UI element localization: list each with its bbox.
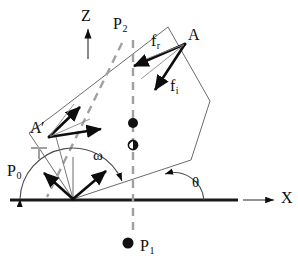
fr-subscript: r <box>157 40 160 51</box>
p2-subscript: 2 <box>122 23 127 34</box>
fi-letter: f <box>170 77 175 94</box>
fr-letter: f <box>151 32 156 49</box>
aprime-force-vectors <box>48 104 102 139</box>
diagram-canvas <box>0 0 298 269</box>
p1-letter: P <box>140 237 149 254</box>
omega-label: ω <box>93 148 103 163</box>
p0-subscript: 0 <box>16 170 21 181</box>
theta-label: θ <box>192 175 199 190</box>
mass-dot-upper <box>128 118 138 128</box>
p2-letter: P <box>113 15 122 32</box>
fr-label: fr <box>151 33 160 49</box>
z-axis-label: Z <box>81 8 91 24</box>
p1-label: P1 <box>140 238 154 254</box>
fi-label: fi <box>170 78 178 94</box>
fi-subscript: i <box>176 85 179 96</box>
a-prime-text: A′ <box>30 119 44 136</box>
a-label: A <box>188 27 200 43</box>
a-force-vectors <box>134 43 187 91</box>
p1-subscript: 1 <box>149 245 154 256</box>
mass-dot-split <box>128 140 137 149</box>
x-axis-label: X <box>281 190 293 206</box>
p0-label: P0 <box>7 163 21 179</box>
p2-label: P2 <box>113 16 127 32</box>
p0-letter: P <box>7 162 16 179</box>
a-prime-label: A′ <box>30 120 44 136</box>
force-diagram-figure: Z X P2 A fr fi A′ P0 P1 ω θ <box>0 0 298 269</box>
p1-dot <box>123 238 134 249</box>
